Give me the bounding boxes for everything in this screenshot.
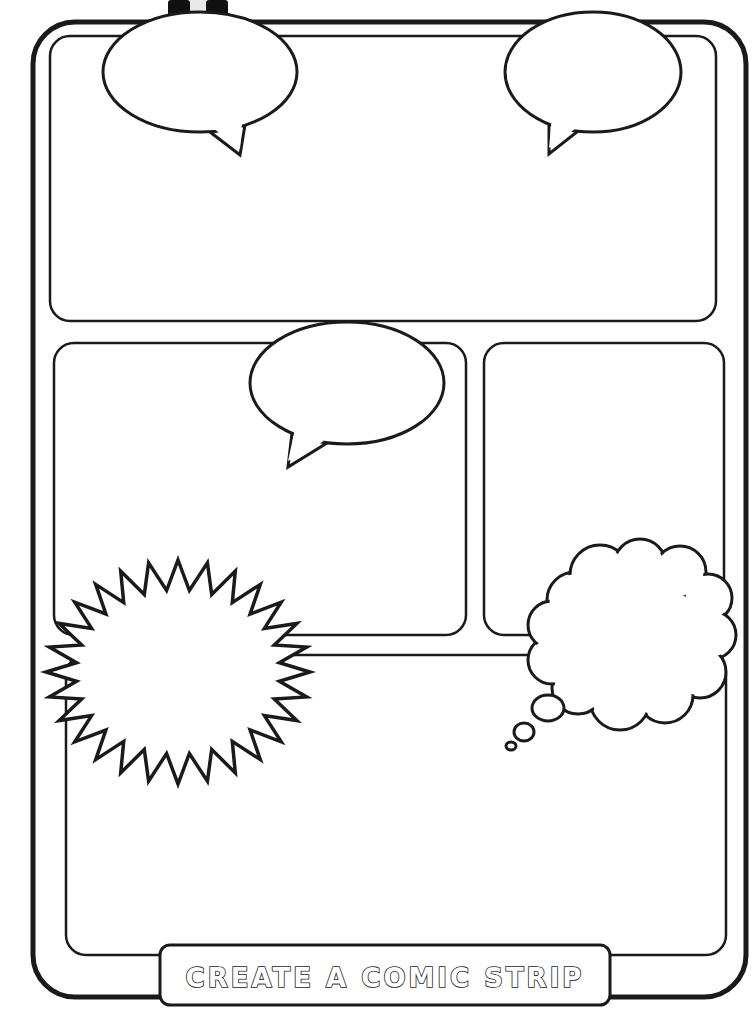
thought-trail-circle-1 <box>532 695 564 721</box>
speech-bubble-middle <box>250 322 444 467</box>
thought-bubble <box>506 539 736 750</box>
worksheet-title: CREATE A COMIC STRIP <box>186 963 585 993</box>
comic-strip-worksheet: CREATE A COMIC STRIP <box>0 0 755 1035</box>
speech-bubble-top-left <box>103 12 297 155</box>
thought-trail-circle-3 <box>506 742 516 750</box>
title-banner: CREATE A COMIC STRIP <box>160 945 610 1005</box>
comic-panels <box>50 36 726 955</box>
exclamation-burst-icon <box>46 560 310 784</box>
outer-frame <box>33 22 746 997</box>
thought-trail-circle-2 <box>514 723 534 741</box>
speech-bubble-top-right <box>505 12 681 154</box>
speech-bubbles <box>103 12 681 467</box>
